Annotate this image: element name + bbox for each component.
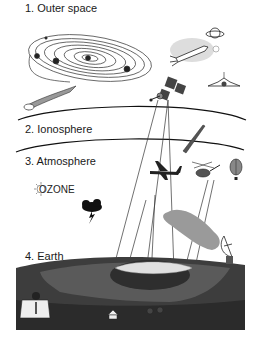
layer-label-outer-space: 1. Outer space (25, 2, 97, 14)
layer-label-ionosphere: 2. Ionosphere (25, 123, 92, 135)
ionosphere-boundary (16, 139, 244, 152)
solar-system-icon (26, 28, 155, 89)
satellite-dish-icon (221, 236, 233, 264)
helicopter-icon (192, 162, 220, 177)
satellite-icon (149, 77, 186, 102)
rocket-icon (170, 38, 214, 66)
space-shuttle-icon (208, 72, 240, 87)
storm-cloud-icon (82, 199, 102, 224)
earth-ground (16, 257, 245, 330)
layer-label-earth: 4. Earth (25, 250, 64, 262)
comet-icon (24, 86, 76, 110)
ozone-label: OZONE (39, 184, 75, 195)
planet-saturn-icon (206, 28, 224, 38)
airplane-icon (150, 161, 182, 180)
missile-icon (183, 125, 205, 153)
hot-air-balloon-icon (230, 159, 242, 180)
layer-label-atmosphere: 3. Atmosphere (25, 155, 96, 167)
layers-diagram (0, 0, 257, 340)
moon-icon (213, 46, 219, 52)
outer-space-boundary (18, 106, 246, 120)
